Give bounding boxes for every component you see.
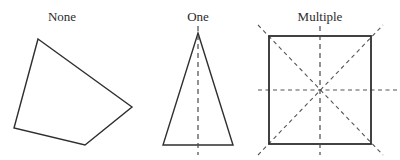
irregular-quadrilateral-shape	[14, 39, 132, 145]
panel-none: None	[14, 9, 132, 145]
panel-label-none: None	[48, 9, 76, 24]
panel-multiple: Multiple	[258, 9, 397, 155]
panel-label-one: One	[187, 9, 209, 24]
panel-one: One	[163, 9, 233, 155]
panel-label-multiple: Multiple	[298, 9, 343, 24]
symmetry-figure: None One Multiple	[0, 0, 400, 160]
figure-canvas: None One Multiple	[0, 0, 400, 160]
